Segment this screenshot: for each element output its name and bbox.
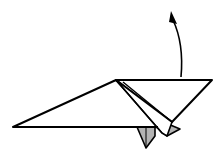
paper-airplane-illustration [0, 0, 223, 163]
origami-diagram [0, 0, 223, 163]
fold-up-arrow-icon [169, 11, 182, 77]
main-wing [13, 80, 212, 136]
